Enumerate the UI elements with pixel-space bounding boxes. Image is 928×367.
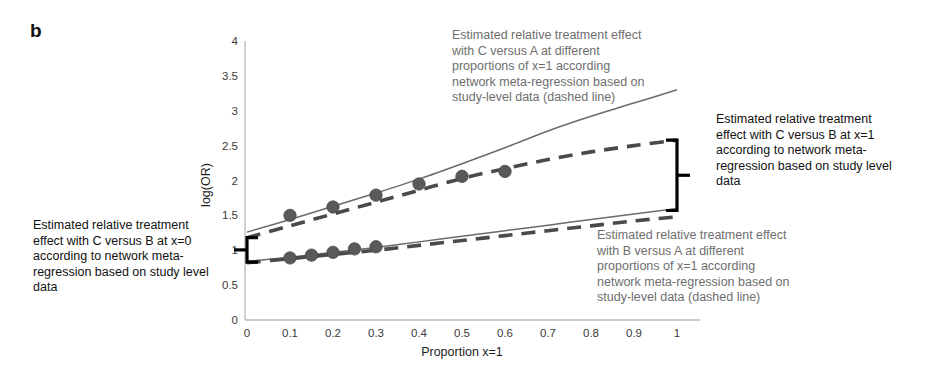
- data-point-marker: [327, 246, 339, 258]
- annotation-c-versus-a: Estimated relative treatment effect with…: [452, 28, 697, 106]
- data-point-marker: [370, 241, 382, 253]
- data-point-marker: [456, 170, 468, 182]
- x-axis: 00.10.20.30.40.50.60.70.80.91 Proportion…: [244, 320, 700, 359]
- y-tick-label: 2: [232, 175, 238, 187]
- x-tick-label: 0.5: [454, 327, 470, 339]
- series-line-1: [247, 140, 677, 238]
- data-point-marker: [499, 165, 511, 177]
- y-tick-label: 4: [232, 35, 239, 47]
- y-tick-label: 0.5: [222, 279, 238, 291]
- y-tick-label: 1.5: [222, 209, 238, 221]
- series-line-0: [247, 90, 677, 232]
- x-tick-label: 0.2: [325, 327, 341, 339]
- y-tick-label: 3.5: [222, 70, 238, 82]
- data-point-marker: [327, 201, 339, 213]
- data-point-marker: [284, 209, 296, 221]
- y-tick-label: 2.5: [222, 140, 238, 152]
- y-tick-label: 3: [232, 105, 238, 117]
- x-tick-label: 1: [674, 327, 680, 339]
- x-axis-title: Proportion x=1: [421, 345, 503, 359]
- data-point-marker: [305, 249, 317, 261]
- data-point-marker: [348, 243, 360, 255]
- annotation-c-versus-b-x0: Estimated relative treatment effect with…: [33, 218, 223, 296]
- annotation-b-versus-a: Estimated relative treatment effect with…: [597, 228, 827, 306]
- x-tick-label: 0.6: [497, 327, 513, 339]
- x-tick-label: 0.9: [626, 327, 642, 339]
- x-tick-label: 0.3: [368, 327, 384, 339]
- left-bracket: [234, 238, 258, 262]
- annotation-c-versus-b-x1: Estimated relative treatment effect with…: [716, 112, 921, 190]
- x-tick-label: 0.8: [583, 327, 599, 339]
- data-point-marker: [284, 252, 296, 264]
- y-axis-title: log(OR): [199, 163, 213, 207]
- figure-panel-b: b 00.511.522.533.54 log(OR) 00.10.20.30.…: [0, 0, 928, 367]
- data-point-marker: [413, 178, 425, 190]
- x-tick-label: 0.4: [411, 327, 428, 339]
- right-bracket: [666, 140, 690, 210]
- y-tick-label: 0: [232, 314, 238, 326]
- x-tick-label: 0.7: [540, 327, 556, 339]
- data-point-marker: [370, 189, 382, 201]
- x-tick-label: 0.1: [282, 327, 298, 339]
- x-tick-label: 0: [244, 327, 250, 339]
